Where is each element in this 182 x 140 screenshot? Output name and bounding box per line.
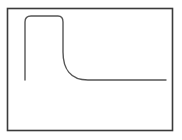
waveform-diagram — [0, 0, 182, 140]
diagram-frame — [8, 9, 173, 131]
pulse-curve — [25, 16, 166, 80]
